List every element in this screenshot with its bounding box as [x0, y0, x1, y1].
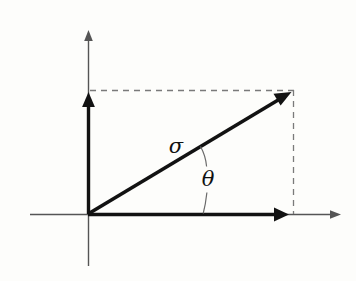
vector-diagram-canvas: σ θ [0, 0, 356, 281]
theta-label: θ [202, 167, 215, 191]
vector-diagram-figure: σ θ [0, 0, 356, 281]
sigma-label: σ [169, 134, 184, 158]
